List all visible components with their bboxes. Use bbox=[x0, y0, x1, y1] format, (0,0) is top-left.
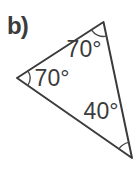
angle-label-bottom-right: 40° bbox=[84, 98, 119, 124]
angle-arc-bottom-right bbox=[119, 142, 129, 149]
angle-label-top: 70° bbox=[67, 36, 102, 62]
worksheet-figure: b) 70° 70° 40° bbox=[0, 0, 140, 169]
angle-label-left: 70° bbox=[35, 65, 70, 91]
angle-arc-left bbox=[28, 71, 30, 86]
triangle-diagram: 70° 70° 40° bbox=[0, 0, 140, 169]
